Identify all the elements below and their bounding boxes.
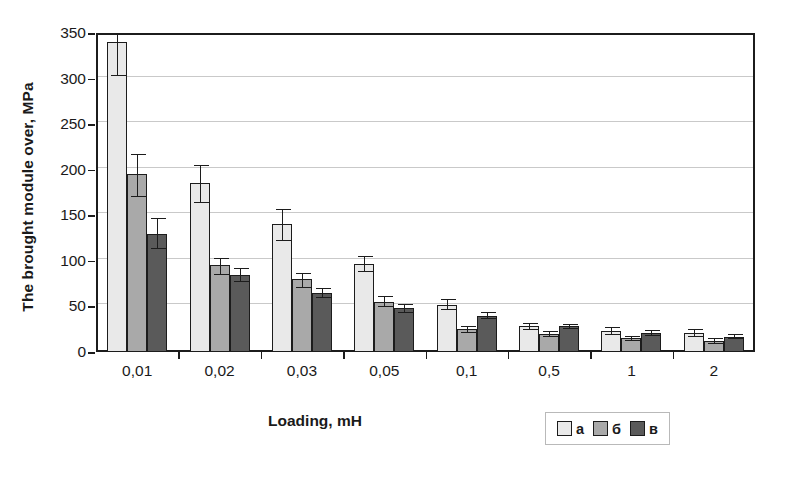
error-bar-cap-bottom: [441, 309, 456, 310]
error-bar-cap-bottom: [131, 196, 146, 197]
legend-item[interactable]: б: [593, 421, 621, 437]
scan-artifact-strip: [0, 455, 785, 479]
x-tick-label: 0,05: [343, 362, 425, 380]
bar-wrapper: [147, 33, 167, 352]
bar-wrapper: [539, 33, 559, 352]
bar-wrapper: [724, 33, 744, 352]
error-bar-cap-bottom: [316, 297, 331, 298]
y-tick-label: 250: [40, 115, 86, 133]
bar-в[interactable]: [394, 308, 414, 352]
bar-wrapper: [190, 33, 210, 352]
error-bar: [611, 327, 612, 334]
bar-wrapper: [559, 33, 579, 352]
error-bar-cap-bottom: [645, 335, 660, 336]
error-bar-cap-bottom: [605, 334, 620, 335]
y-tick-label: 200: [40, 161, 86, 179]
x-tick-mark: [590, 352, 592, 359]
legend-item[interactable]: а: [557, 421, 584, 437]
error-bar-cap-top: [688, 329, 703, 330]
x-tick-label: 0,03: [261, 362, 343, 380]
x-tick-label: 0,5: [508, 362, 590, 380]
error-bar: [220, 258, 221, 274]
error-bar-cap-bottom: [563, 328, 578, 329]
error-bar: [631, 336, 632, 341]
x-tick-mark: [343, 352, 345, 359]
bar-wrapper: [704, 33, 724, 352]
legend-item[interactable]: в: [630, 421, 658, 437]
error-bar-cap-bottom: [625, 340, 640, 341]
error-bar-cap-top: [296, 273, 311, 274]
error-bar: [240, 268, 241, 282]
bar-а[interactable]: [107, 42, 127, 352]
error-bar-cap-top: [398, 304, 413, 305]
y-tick-mark: [88, 215, 95, 217]
bar-б[interactable]: [292, 279, 312, 352]
error-bar: [734, 334, 735, 339]
error-bar-cap-top: [316, 288, 331, 289]
error-bar-cap-top: [378, 296, 393, 297]
error-bar: [404, 304, 405, 313]
bar-в[interactable]: [559, 326, 579, 352]
bar-groups: [96, 33, 755, 352]
legend-label: в: [649, 421, 658, 437]
legend-swatch: [557, 421, 572, 436]
error-bar-cap-top: [645, 330, 660, 331]
error-bar-cap-top: [194, 165, 209, 166]
bar-в[interactable]: [147, 234, 167, 352]
bar-wrapper: [437, 33, 457, 352]
bar-group: [96, 33, 178, 352]
error-bar-cap-top: [441, 299, 456, 300]
error-bar-cap-bottom: [728, 338, 743, 339]
bar-в[interactable]: [312, 293, 332, 352]
bar-в[interactable]: [477, 316, 497, 352]
error-bar: [302, 273, 303, 288]
error-bar-cap-bottom: [481, 318, 496, 319]
error-bar: [694, 329, 695, 336]
bar-wrapper: [601, 33, 621, 352]
error-bar: [137, 154, 138, 197]
y-tick-mark: [88, 306, 95, 308]
legend-label: б: [612, 421, 621, 437]
legend-label: а: [576, 421, 584, 437]
bar-а[interactable]: [354, 264, 374, 352]
x-tick-mark: [426, 352, 428, 359]
bar-в[interactable]: [230, 275, 250, 352]
bar-б[interactable]: [127, 174, 147, 352]
error-bar-cap-top: [214, 258, 229, 259]
bar-wrapper: [312, 33, 332, 352]
error-bar: [157, 218, 158, 249]
bar-group: [343, 33, 425, 352]
bar-а[interactable]: [519, 326, 539, 352]
legend-swatch: [593, 421, 608, 436]
error-bar-cap-bottom: [543, 336, 558, 337]
bar-б[interactable]: [210, 265, 230, 352]
error-bar: [117, 33, 118, 76]
legend-swatch: [630, 421, 645, 436]
error-bar-cap-bottom: [214, 274, 229, 275]
bar-wrapper: [210, 33, 230, 352]
bar-б[interactable]: [374, 302, 394, 352]
bar-а[interactable]: [272, 224, 292, 352]
bar-в[interactable]: [641, 333, 661, 352]
error-bar: [200, 165, 201, 203]
x-tick-mark: [508, 352, 510, 359]
error-bar-cap-bottom: [523, 329, 538, 330]
y-tick-mark: [88, 261, 95, 263]
error-bar-cap-top: [358, 256, 373, 257]
bar-а[interactable]: [437, 305, 457, 352]
error-bar-cap-top: [625, 336, 640, 337]
error-bar-cap-bottom: [358, 271, 373, 272]
error-bar-cap-bottom: [296, 287, 311, 288]
error-bar-cap-bottom: [708, 343, 723, 344]
bar-wrapper: [519, 33, 539, 352]
bar-wrapper: [477, 33, 497, 352]
x-axis-tick-labels: 0,010,020,030,050,10,512: [96, 362, 755, 380]
error-bar-cap-bottom: [276, 240, 291, 241]
error-bar: [447, 299, 448, 310]
y-tick-mark: [88, 352, 95, 354]
y-tick-label: 50: [40, 297, 86, 315]
error-bar: [529, 323, 530, 330]
bar-а[interactable]: [190, 183, 210, 352]
error-bar-cap-top: [605, 327, 620, 328]
y-tick-label: 100: [40, 252, 86, 270]
